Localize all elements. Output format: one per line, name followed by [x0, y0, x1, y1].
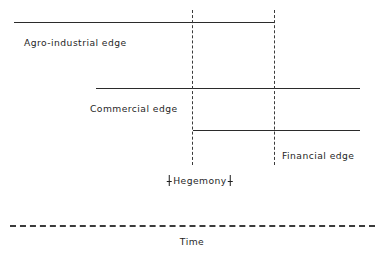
label-agro-industrial-edge: Agro-industrial edge: [24, 37, 127, 48]
time-axis-line: [10, 225, 375, 227]
time-axis-label: Time: [180, 236, 204, 247]
hegemony-end-marker: [274, 10, 275, 165]
hegemony-label-group: Hegemony: [167, 175, 233, 186]
hegemony-start-marker: [192, 10, 193, 165]
right-bracket-icon: [228, 175, 233, 186]
timeline-diagram: Agro-industrial edge Commercial edge Fin…: [0, 0, 384, 261]
edge-line-financial: [193, 130, 360, 131]
edge-line-agro-industrial: [14, 22, 275, 23]
label-commercial-edge: Commercial edge: [90, 103, 178, 114]
label-financial-edge: Financial edge: [282, 150, 354, 161]
hegemony-label: Hegemony: [173, 175, 226, 186]
edge-line-commercial: [96, 88, 360, 89]
left-bracket-icon: [167, 175, 172, 186]
